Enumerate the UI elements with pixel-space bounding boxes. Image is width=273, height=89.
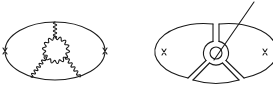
left-wavy-propagator-bottom-left xyxy=(31,57,46,78)
left-wavy-propagator-top xyxy=(53,22,56,38)
feynman-diagrams-figure xyxy=(0,0,273,89)
right-diagram xyxy=(155,2,273,83)
right-channel-top xyxy=(213,24,219,41)
right-outer-arc-right xyxy=(219,24,273,78)
right-vertex-cross-right xyxy=(263,49,267,55)
right-pointer-line xyxy=(214,2,254,60)
right-channel-down-left xyxy=(188,61,210,81)
right-channel-down-right xyxy=(223,61,245,81)
left-outer-loop xyxy=(5,22,105,80)
right-vertex-cross-left xyxy=(162,49,166,55)
right-outer-arc-bottom xyxy=(193,80,239,83)
left-diagram xyxy=(3,22,107,80)
left-wavy-propagator-bottom-right xyxy=(65,57,80,77)
